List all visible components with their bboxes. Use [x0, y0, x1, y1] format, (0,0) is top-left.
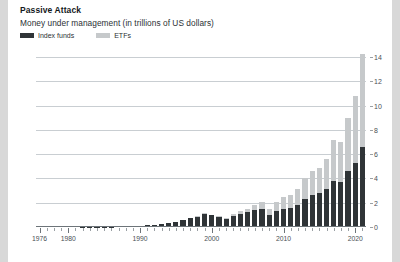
x-tick-mark — [355, 228, 356, 233]
bar-segment-etfs — [302, 178, 307, 199]
x-tick-mark — [169, 228, 170, 231]
x-tick-mark — [212, 228, 213, 233]
x-axis: 197619801990200020102020 — [36, 228, 366, 246]
bar-2010 — [281, 197, 286, 227]
bar-segment-etfs — [310, 171, 315, 195]
x-tick-mark — [334, 228, 335, 231]
x-tick-mark — [255, 228, 256, 231]
bar-segment-index-funds — [310, 195, 315, 227]
x-tick-mark — [298, 228, 299, 231]
y-tick-mark — [370, 154, 373, 155]
y-tick-label: 14 — [374, 54, 382, 61]
x-tick-label: 2010 — [276, 235, 291, 242]
bar-segment-index-funds — [281, 209, 286, 227]
bar-segment-etfs — [324, 159, 329, 189]
page-title: Passive Attack — [20, 5, 81, 15]
plot-area — [36, 45, 366, 227]
bar-segment-index-funds — [353, 163, 358, 227]
bar-segment-index-funds — [274, 211, 279, 227]
chart-subtitle: Money under management (in trillions of … — [20, 18, 214, 28]
x-tick-mark — [348, 228, 349, 231]
bar-segment-etfs — [288, 195, 293, 208]
x-tick-mark — [362, 228, 363, 231]
x-tick-mark — [154, 228, 155, 231]
x-tick-mark — [312, 228, 313, 231]
y-tick-label: 0 — [374, 224, 378, 231]
bar-1999 — [202, 213, 207, 227]
legend-swatch-index-funds — [20, 33, 34, 38]
x-tick-mark — [54, 228, 55, 231]
bar-segment-etfs — [317, 168, 322, 193]
legend-label-etfs: ETFs — [114, 32, 131, 39]
x-tick-label: 1990 — [132, 235, 147, 242]
chart-card: Passive Attack Money under management (i… — [8, 0, 392, 262]
x-tick-mark — [219, 228, 220, 231]
chart-legend: Index funds ETFs — [20, 32, 131, 39]
x-tick-label: 1976 — [32, 235, 47, 242]
x-tick-mark — [341, 228, 342, 231]
x-tick-mark — [197, 228, 198, 231]
x-tick-mark — [269, 228, 270, 231]
y-tick-mark — [370, 178, 373, 179]
y-tick-label: 12 — [374, 78, 382, 85]
bar-segment-etfs — [281, 197, 286, 209]
y-tick-label: 6 — [374, 151, 378, 158]
bar-2021 — [360, 54, 365, 228]
bar-segment-etfs — [360, 54, 365, 147]
bar-segment-etfs — [353, 96, 358, 163]
x-tick-label: 1980 — [61, 235, 76, 242]
bar-2012 — [295, 189, 300, 227]
bar-segment-etfs — [331, 140, 336, 181]
y-tick-mark — [370, 130, 373, 131]
x-tick-mark — [75, 228, 76, 231]
bar-segment-etfs — [345, 118, 350, 171]
legend-swatch-etfs — [96, 33, 110, 38]
bar-2014 — [310, 171, 315, 227]
x-tick-mark — [190, 228, 191, 231]
bar-2017 — [331, 140, 336, 227]
x-tick-mark — [305, 228, 306, 231]
x-tick-mark — [276, 228, 277, 231]
bar-segment-index-funds — [252, 210, 257, 227]
bar-2018 — [338, 142, 343, 227]
bar-segment-index-funds — [259, 209, 264, 227]
x-tick-mark — [262, 228, 263, 231]
x-tick-mark — [40, 228, 41, 233]
bar-2004 — [238, 211, 243, 227]
x-tick-mark — [140, 228, 141, 233]
x-tick-mark — [133, 228, 134, 231]
x-tick-mark — [240, 228, 241, 231]
bar-segment-index-funds — [345, 171, 350, 227]
x-tick-label: 2020 — [348, 235, 363, 242]
bar-segment-index-funds — [302, 199, 307, 227]
bar-segment-index-funds — [360, 147, 365, 227]
bar-segment-index-funds — [331, 181, 336, 227]
bar-2009 — [274, 202, 279, 227]
bar-segment-index-funds — [295, 205, 300, 227]
legend-item-index-funds: Index funds — [20, 32, 74, 39]
x-tick-mark — [248, 228, 249, 231]
x-tick-mark — [162, 228, 163, 231]
x-tick-mark — [111, 228, 112, 231]
y-axis: 02468101214 — [370, 45, 392, 227]
bar-segment-etfs — [338, 142, 343, 182]
bar-2019 — [345, 118, 350, 227]
y-tick-mark — [370, 81, 373, 82]
x-tick-label: 2000 — [204, 235, 219, 242]
bar-2005 — [245, 209, 250, 227]
x-tick-mark — [176, 228, 177, 231]
bar-2007 — [259, 202, 264, 227]
x-tick-mark — [68, 228, 69, 233]
y-tick-label: 2 — [374, 199, 378, 206]
bar-segment-index-funds — [245, 212, 250, 227]
x-tick-mark — [284, 228, 285, 233]
axis-baseline — [36, 226, 366, 227]
x-tick-mark — [226, 228, 227, 231]
bar-2016 — [324, 159, 329, 227]
x-tick-mark — [90, 228, 91, 231]
bar-segment-index-funds — [324, 189, 329, 227]
legend-item-etfs: ETFs — [96, 32, 131, 39]
x-tick-mark — [47, 228, 48, 231]
x-tick-mark — [104, 228, 105, 231]
bar-2020 — [353, 96, 358, 227]
